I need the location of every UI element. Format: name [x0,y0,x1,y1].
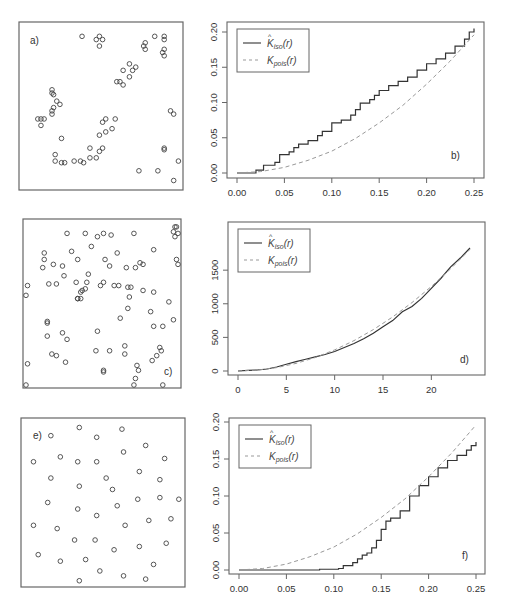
point-marker [24,383,29,388]
panel-label-a: a) [30,35,39,46]
point-marker [75,459,80,464]
point-marker [89,244,94,249]
point-marker [45,500,50,505]
y-tick-label: 0.15 [210,450,221,469]
point-marker [137,469,142,474]
point-marker [86,272,91,277]
point-marker [118,316,123,321]
x-tick-label: 0.10 [323,187,342,198]
point-marker [94,459,99,464]
point-marker [59,136,64,141]
x-tick-label: 0.20 [417,187,436,198]
point-marker [103,257,108,262]
point-marker [112,547,117,552]
point-marker [77,425,82,430]
y-tick-label: 0.20 [210,413,221,432]
point-marker [83,231,88,236]
point-marker [171,318,176,323]
point-marker [75,257,80,262]
point-marker [173,234,178,239]
point-marker [69,249,74,254]
point-marker [132,383,137,388]
point-marker [107,348,112,353]
point-marker [42,117,47,122]
point-marker [45,334,50,339]
point-marker [176,262,181,267]
point-marker [103,117,108,122]
x-tick-label: 0.05 [275,187,294,198]
point-marker [97,44,102,49]
point-marker [161,383,166,388]
point-marker [169,517,174,522]
y-tick-label: 1500 [209,260,220,281]
point-pattern-e [21,418,185,587]
point-marker [58,102,63,107]
point-marker [109,233,114,238]
point-marker [151,324,156,329]
k-function-plot-d: 05101520050010001500Kiso(r)^Kpois(r) [209,222,485,395]
point-marker [49,476,54,481]
panel-label-d: d) [460,354,469,365]
point-marker [53,152,58,157]
point-marker [124,265,129,270]
point-marker [156,169,161,174]
point-marker [115,503,120,508]
point-marker [94,348,99,353]
point-marker [177,497,182,502]
point-marker [103,130,108,135]
y-tick-label: 0.15 [208,58,219,77]
point-marker [49,433,54,438]
point-marker [133,65,138,70]
point-marker [135,497,140,502]
y-tick-label: 0.05 [208,129,219,148]
point-marker [95,329,100,334]
y-tick-label: 0.20 [208,23,219,42]
point-marker [94,513,99,518]
point-marker [107,264,112,269]
x-tick-label: 0.00 [230,583,249,594]
point-marker [126,306,131,311]
point-marker [113,117,118,122]
x-tick-label: 20 [426,384,437,395]
point-marker [42,257,47,262]
point-marker [121,450,126,455]
x-tick-label: 0.15 [370,187,389,198]
point-pattern-a [19,22,183,190]
point-marker [74,280,79,285]
point-marker [152,34,157,39]
point-marker [158,477,163,482]
point-marker [88,146,93,151]
point-marker [161,324,166,329]
point-marker [94,156,99,161]
panel-label-e: e) [33,430,42,441]
point-marker [94,435,99,440]
point-marker [42,251,47,256]
point-marker [171,229,176,234]
point-marker [123,523,128,528]
x-tick-label: 5 [284,384,289,395]
point-marker [100,37,105,42]
point-marker [171,112,176,117]
figure-canvas: 0.000.050.100.150.200.250.000.050.100.15… [0,0,505,611]
y-tick-label: 0.00 [210,561,221,580]
x-tick-label: 0.05 [277,583,296,594]
x-tick-label: 0 [235,384,240,395]
point-marker [167,300,172,305]
point-marker [148,309,153,314]
point-marker [75,507,80,512]
point-marker [95,234,100,239]
point-marker [54,282,59,287]
point-marker [136,368,141,373]
point-marker [85,280,90,285]
point-marker [176,159,181,164]
point-marker [60,264,65,269]
pattern-frame [23,219,181,388]
point-marker [80,34,85,39]
point-marker [93,538,98,543]
point-marker [150,358,155,363]
point-marker [54,353,59,358]
point-marker [72,538,77,543]
y-tick-label: 1000 [209,293,220,314]
k-function-plot-f: 0.000.050.100.150.200.250.000.050.100.15… [210,413,485,594]
y-tick-label: 0 [209,368,220,373]
